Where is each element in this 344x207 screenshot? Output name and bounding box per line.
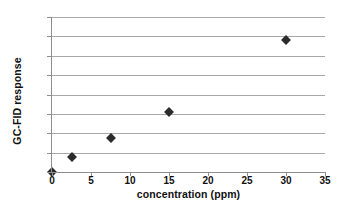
x-tick-label: 25	[241, 175, 252, 186]
x-tick-label: 20	[202, 175, 213, 186]
gridline	[52, 56, 325, 57]
x-tick-label: 10	[124, 175, 135, 186]
x-tick-mark	[247, 172, 248, 176]
y-tick-mark	[47, 133, 52, 134]
x-tick-label: 0	[49, 175, 55, 186]
gridline	[52, 133, 325, 134]
x-axis-line	[52, 172, 325, 173]
gridline	[52, 75, 325, 76]
x-tick-mark	[208, 172, 209, 176]
gridline	[52, 153, 325, 154]
x-tick-label: 30	[280, 175, 291, 186]
gridline	[52, 17, 325, 18]
x-tick-label: 15	[163, 175, 174, 186]
y-tick-mark	[47, 17, 52, 18]
y-axis-title: GC-FID response	[11, 26, 23, 176]
chart-container: GC-FID response 020004000600080001000012…	[0, 0, 344, 207]
x-tick-mark	[169, 172, 170, 176]
x-tick-mark	[325, 172, 326, 176]
data-point	[67, 153, 77, 163]
x-tick-mark	[52, 172, 53, 176]
y-tick-mark	[47, 75, 52, 76]
x-tick-mark	[91, 172, 92, 176]
gridline	[52, 114, 325, 115]
plot-area	[52, 17, 325, 172]
x-tick-mark	[130, 172, 131, 176]
data-point	[164, 107, 174, 117]
x-axis-title: concentration (ppm)	[52, 188, 325, 200]
y-tick-mark	[47, 95, 52, 96]
gridline	[52, 95, 325, 96]
x-tick-label: 35	[319, 175, 330, 186]
y-tick-mark	[47, 36, 52, 37]
x-tick-mark	[286, 172, 287, 176]
data-point	[106, 133, 116, 143]
y-tick-mark	[47, 114, 52, 115]
y-tick-mark	[47, 56, 52, 57]
y-tick-mark	[47, 153, 52, 154]
x-tick-label: 5	[88, 175, 94, 186]
